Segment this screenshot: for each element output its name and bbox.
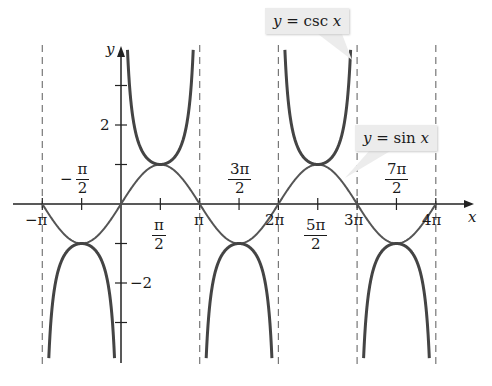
x-axis-arrow-icon	[464, 200, 474, 208]
csc-branch	[285, 50, 351, 165]
callout-pointers	[318, 34, 392, 178]
sin-legend-callout: y = sin x	[355, 125, 437, 151]
x-tick-label-5pi-half: 5π 2	[304, 218, 327, 253]
axes	[13, 46, 474, 363]
x-tick-label-neg-pi-half: − π 2	[60, 162, 89, 197]
csc-branch	[364, 244, 430, 359]
x-tick-label-3pi-half: 3π 2	[228, 162, 251, 197]
y-axis-arrow-icon	[117, 46, 125, 57]
csc-legend-callout: y = csc x	[265, 8, 349, 34]
y-axis-label: y	[106, 42, 114, 57]
y-tick-label-neg2: −2	[130, 276, 152, 291]
csc-callout-pointer	[318, 34, 352, 60]
x-tick-label-7pi-half: 7π 2	[385, 162, 408, 197]
x-tick-label-pi: π	[194, 213, 204, 228]
x-axis-label: x	[468, 210, 476, 225]
x-tick-label-pi-half: π 2	[152, 218, 166, 253]
x-tick-label-neg-pi: −π	[25, 213, 47, 228]
y-tick-label-2: 2	[100, 118, 110, 133]
csc-branch	[206, 244, 272, 359]
csc-branch	[49, 244, 115, 359]
x-tick-label-2pi: 2π	[265, 213, 284, 228]
chart-figure: y x 2 −2 −π π 2π 3π 4π − π 2 3π 2 7π 2 π…	[0, 0, 492, 386]
csc-branch	[127, 50, 193, 165]
x-tick-label-4pi: 4π	[422, 213, 441, 228]
x-tick-label-3pi: 3π	[344, 213, 363, 228]
